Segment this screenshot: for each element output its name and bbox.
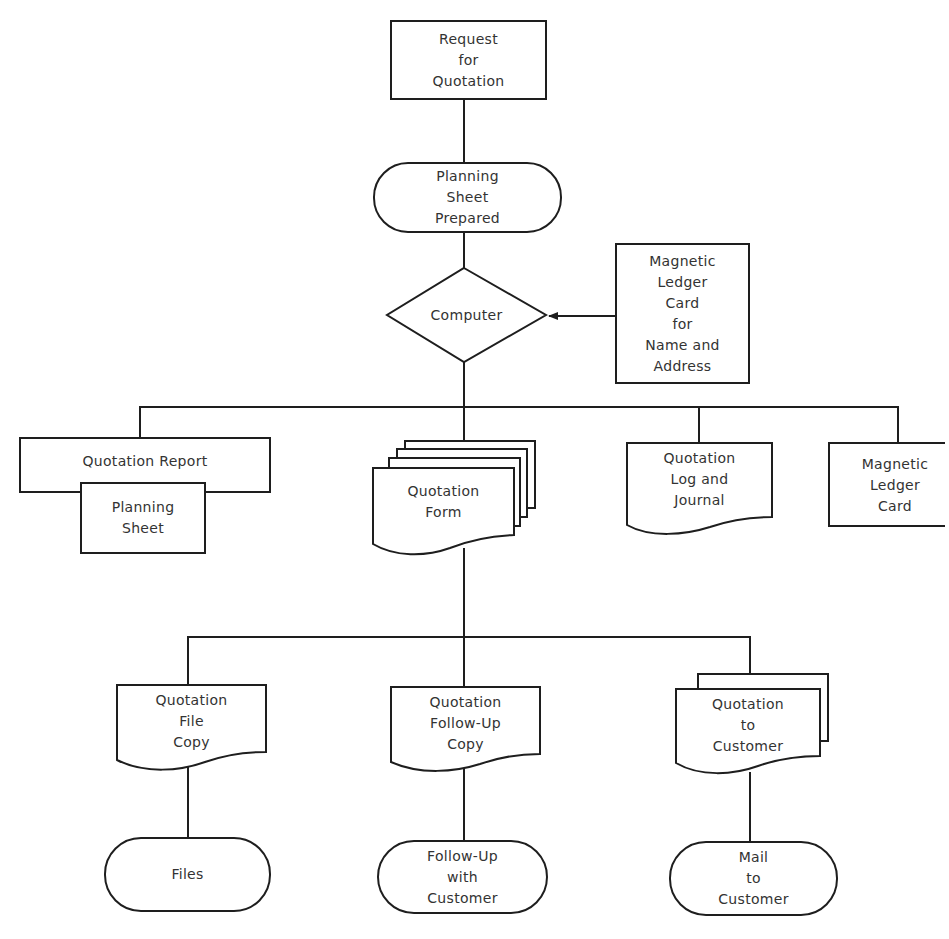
label-line: Quotation Report (82, 451, 207, 472)
label-line: Files (171, 864, 203, 885)
to-customer-label: Quotation to Customer (676, 692, 820, 758)
label-line: Ledger (657, 272, 707, 293)
file-copy-label: Quotation File Copy (117, 688, 266, 754)
label-line: for (672, 314, 692, 335)
label-line: Quotation (432, 71, 504, 92)
label-line: to (746, 868, 761, 889)
label-line: Quotation (155, 690, 227, 711)
label-line: Card (878, 496, 912, 517)
mail-customer-label: Mail to Customer (670, 842, 837, 915)
label-line: Planning (436, 166, 499, 187)
label-line: Card (666, 293, 700, 314)
label-line: Form (425, 502, 461, 523)
label-line: with (447, 867, 478, 888)
label-line: Name and (645, 335, 720, 356)
ledger-card-label: Magnetic Ledger Card (829, 450, 949, 520)
label-line: Customer (713, 736, 783, 757)
label-line: Copy (447, 734, 484, 755)
label-line: Quotation (407, 481, 479, 502)
label-line: Quotation (663, 448, 735, 469)
label-line: Quotation (429, 692, 501, 713)
label-line: Follow-Up (427, 846, 498, 867)
label-line: for (458, 50, 478, 71)
planning-sheet-label: Planning Sheet (81, 483, 205, 553)
label-line: Address (654, 356, 712, 377)
label-line: Sheet (122, 518, 164, 539)
label-line: Customer (427, 888, 497, 909)
quotation-form-label: Quotation Form (373, 477, 514, 527)
followup-copy-label: Quotation Follow-Up Copy (391, 690, 540, 756)
label-line: Ledger (870, 475, 920, 496)
label-line: Computer (431, 305, 503, 326)
label-line: Sheet (447, 187, 489, 208)
log-journal-label: Quotation Log and Journal (627, 446, 772, 512)
label-line: Mail (739, 847, 769, 868)
files-label: Files (105, 838, 270, 911)
distribution-bus (188, 637, 750, 686)
request-label: Request for Quotation (391, 21, 546, 99)
computer-label: Computer (387, 268, 546, 362)
label-line: Journal (674, 490, 725, 511)
quotation-report-label: Quotation Report (20, 450, 270, 472)
label-line: Follow-Up (430, 713, 501, 734)
label-line: Magnetic (862, 454, 929, 475)
label-line: Planning (112, 497, 175, 518)
label-line: Magnetic (649, 251, 716, 272)
label-line: Log and (671, 469, 729, 490)
followup-customer-label: Follow-Up with Customer (378, 841, 547, 913)
planning-prepared-label: Planning Sheet Prepared (374, 163, 561, 232)
label-line: Customer (718, 889, 788, 910)
label-line: to (741, 715, 756, 736)
label-line: Prepared (435, 208, 500, 229)
label-line: Request (439, 29, 498, 50)
label-line: Copy (173, 732, 210, 753)
ledger-input-label: Magnetic Ledger Card for Name and Addres… (616, 244, 749, 383)
label-line: File (179, 711, 204, 732)
label-line: Quotation (712, 694, 784, 715)
